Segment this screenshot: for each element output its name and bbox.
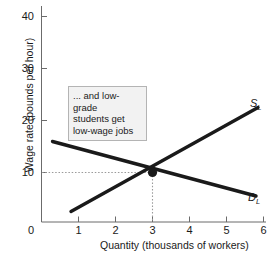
annotation-line-3: low-wage jobs	[73, 125, 142, 137]
annotation-line-2: students get	[73, 113, 142, 125]
demand-curve-label-main: D	[248, 191, 256, 203]
x-axis-ticks	[79, 217, 264, 223]
supply-curve-label: SL	[250, 97, 262, 112]
y-axis-title: Wage rate (pounds per hour)	[23, 20, 35, 190]
wage-rate-supply-demand-chart: 40 30 20 10 0 1 2 3 4 5 6 Wage rate (pou…	[0, 0, 275, 254]
x-tick-label-1: 1	[70, 224, 88, 236]
x-axis-title: Quantity (thousands of workers)	[100, 239, 249, 251]
equilibrium-point-marker	[148, 168, 157, 177]
demand-curve-label: DL	[248, 191, 260, 206]
annotation-low-grade-note: ... and low-grade students get low-wage …	[68, 86, 147, 141]
y-tick-label-0: 0	[12, 224, 34, 236]
x-tick-label-2: 2	[107, 224, 125, 236]
y-axis-ticks	[42, 17, 48, 173]
x-tick-label-5: 5	[218, 224, 236, 236]
x-tick-label-6: 6	[255, 224, 273, 236]
supply-curve-label-subscript: L	[257, 103, 261, 112]
annotation-line-1: ... and low-grade	[73, 90, 142, 113]
x-tick-label-4: 4	[181, 224, 199, 236]
x-tick-label-3: 3	[144, 224, 162, 236]
demand-curve-label-subscript: L	[256, 197, 260, 206]
